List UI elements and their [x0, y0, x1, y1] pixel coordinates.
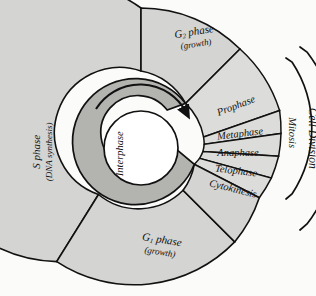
- cycle-hub: [104, 111, 178, 185]
- bracket-mitosis: [286, 58, 312, 199]
- cell-cycle-svg: [0, 0, 316, 296]
- bracket-cell-division: [300, 47, 316, 230]
- cell-cycle-figure: G2 phase (growth) G1 phase (growth) S ph…: [0, 0, 316, 296]
